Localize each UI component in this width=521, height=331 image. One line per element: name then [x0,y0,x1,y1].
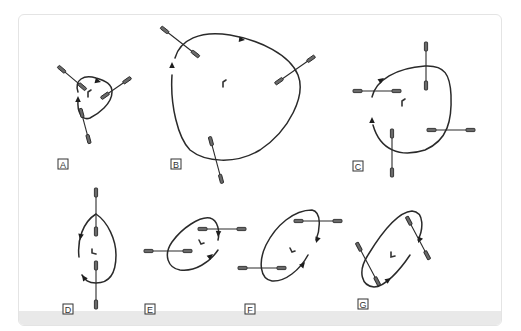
panel-d: D [63,188,116,315]
center-glyph-icon [92,249,96,254]
panel-a: A [57,65,131,169]
panel-f: F [238,210,342,315]
panel-e-loop [167,218,218,270]
probe-icon [274,55,315,85]
arrow-icon [169,62,175,68]
probe-icon [100,76,131,99]
center-glyph-icon [391,252,395,257]
arrow-icon [313,236,320,244]
panel-g: G [355,211,430,310]
panel-g-loop [362,211,422,287]
panel-b: B [160,26,315,184]
probe-icon [94,188,97,236]
panel-g-label: G [359,300,366,310]
probe-icon [355,242,380,286]
probe-icon [79,108,91,144]
panel-c-label: C [355,162,362,172]
panel-a-label: A [60,160,66,170]
arrow-icon [77,234,84,241]
center-glyph-icon [199,240,204,244]
arrow-icon [369,117,375,123]
center-glyph-icon [402,99,405,106]
panel-e-label: E [147,305,153,315]
panel-f-label: F [247,305,253,315]
loop-diagram: A B C D [0,0,521,331]
panel-b-label: B [173,160,179,170]
probe-icon [427,128,475,131]
center-glyph-icon [88,90,91,97]
panel-c: C [353,42,475,177]
probe-icon [160,26,200,58]
center-glyph-icon [290,248,295,252]
probe-icon [198,227,246,230]
panel-e: E [144,218,246,315]
probe-icon [390,129,393,177]
probe-icon [94,261,97,309]
probe-icon [294,219,342,222]
center-glyph-icon [223,80,226,87]
arrow-icon [75,96,81,102]
arrow-icon [215,231,221,237]
panel-d-label: D [65,305,72,315]
probe-icon [353,89,401,92]
panel-c-loop [372,66,451,153]
panel-d-loop [79,214,116,283]
probe-icon [405,216,430,260]
